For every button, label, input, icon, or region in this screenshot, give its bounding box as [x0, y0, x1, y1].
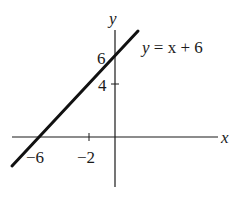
equation-label: y = x + 6	[140, 38, 203, 57]
y-axis-label: y	[107, 9, 117, 28]
x-tick-label-neg2: −2	[77, 148, 95, 167]
x-axis-label: x	[220, 128, 229, 147]
y-tick-label-4: 4	[98, 76, 107, 95]
plot-line-y-equals-x-plus-6	[12, 31, 138, 166]
x-tick-label-neg6: −6	[26, 148, 44, 167]
equation-y: y	[140, 38, 150, 57]
graph-canvas: x y −6 −2 4 6 y = x + 6	[0, 0, 234, 201]
y-tick-label-6: 6	[97, 49, 106, 68]
equation-rest: = x + 6	[150, 38, 203, 57]
